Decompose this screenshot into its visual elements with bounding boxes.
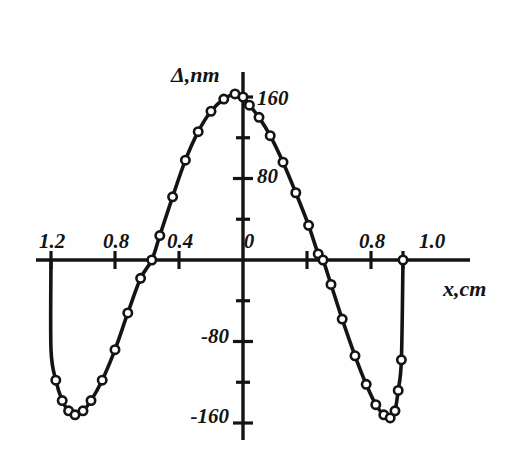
data-point-marker (194, 127, 202, 135)
data-point-marker (351, 352, 359, 360)
data-point-marker (304, 221, 312, 229)
data-point-marker (255, 113, 263, 121)
y-tick-label: 160 (257, 86, 289, 110)
data-point-marker (399, 256, 407, 264)
x-axis-title: x,cm (442, 276, 486, 301)
data-point-marker (207, 107, 215, 115)
data-point-marker (148, 256, 156, 264)
data-point-marker (391, 407, 399, 415)
y-tick-label: 80 (257, 164, 279, 188)
data-point-marker (156, 231, 164, 239)
data-point-marker (220, 95, 228, 103)
data-point-marker (394, 386, 402, 394)
x-tick-label: 1.2 (39, 229, 66, 253)
data-point-marker (98, 376, 106, 384)
data-point-marker (79, 407, 87, 415)
data-point-marker (362, 380, 370, 388)
y-tick-label: -80 (201, 324, 229, 348)
x-tick-label: 0.8 (359, 229, 386, 253)
x-tick-label: 1.0 (419, 229, 446, 253)
data-series-curve (51, 94, 403, 418)
data-point-marker (168, 193, 176, 201)
chart-canvas: 1.20.80.400.81.0 16080-80-160 Δ,nm x,cm (0, 0, 524, 462)
data-point-marker (279, 158, 287, 166)
data-point-marker (372, 400, 380, 408)
data-point-marker (266, 132, 274, 140)
data-point-marker (58, 396, 66, 404)
y-tick-label: -160 (191, 404, 230, 428)
data-point-marker (181, 156, 189, 164)
x-tick-label: 0 (244, 229, 255, 253)
data-point-marker (239, 93, 247, 101)
data-point-marker (124, 309, 132, 317)
data-point-marker (292, 189, 300, 197)
data-point-marker (245, 101, 253, 109)
x-tick-label: 0.8 (103, 229, 130, 253)
x-tick-label: 0.4 (167, 229, 193, 253)
figure-container: 1.20.80.400.81.0 16080-80-160 Δ,nm x,cm (0, 0, 524, 462)
data-point-marker (87, 396, 95, 404)
data-point-marker (111, 345, 119, 353)
data-point-marker (338, 315, 346, 323)
data-point-marker (397, 356, 405, 364)
y-axis-title: Δ,nm (170, 62, 220, 87)
data-point-marker (52, 376, 60, 384)
data-point-marker (319, 256, 327, 264)
data-point-marker (136, 274, 144, 282)
data-point-marker (327, 280, 335, 288)
